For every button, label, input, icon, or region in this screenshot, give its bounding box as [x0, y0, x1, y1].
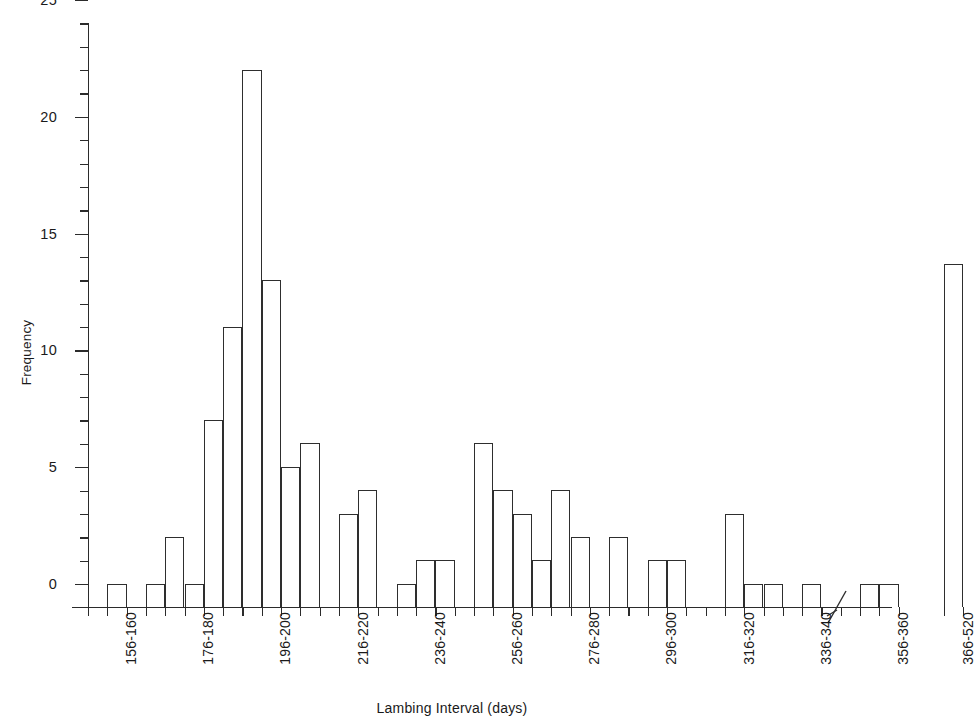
histogram-bar [397, 584, 416, 607]
histogram-bar [146, 584, 165, 607]
x-axis-tick [841, 607, 842, 616]
x-axis-tick [88, 607, 89, 616]
x-axis-tick [686, 607, 687, 616]
histogram-bar [339, 514, 358, 607]
histogram-bar [358, 490, 377, 607]
x-axis-tick [879, 607, 880, 616]
y-axis-minor-tick [80, 561, 88, 562]
y-axis-minor-tick [80, 140, 88, 141]
x-axis-tick [628, 607, 629, 616]
y-axis-tick-label: 0 [49, 576, 57, 592]
x-axis-tick [648, 607, 649, 616]
y-axis-minor-tick [80, 187, 88, 188]
x-axis-tick [378, 607, 379, 616]
x-axis-tick [474, 607, 475, 616]
histogram-bar [571, 537, 590, 607]
x-axis-tick [493, 607, 494, 616]
histogram-bar [300, 443, 319, 607]
histogram-bar [474, 443, 493, 607]
histogram-bar [223, 327, 242, 607]
y-axis-title: Frequency [19, 293, 34, 413]
y-axis-major-tick [75, 234, 88, 235]
x-axis-tick [223, 607, 224, 616]
y-axis-minor-tick [80, 327, 88, 328]
y-axis-major-tick [75, 0, 88, 1]
histogram-bar [532, 560, 551, 607]
x-axis-tick-label: 176-180 [200, 612, 216, 665]
y-axis-major-tick [75, 584, 88, 585]
y-axis-tick-label: 20 [40, 109, 57, 125]
x-axis-tick [339, 607, 340, 616]
x-axis-tick [146, 607, 147, 616]
histogram-bar [242, 70, 261, 607]
y-axis-tick-label: 5 [49, 459, 57, 475]
histogram-bar [879, 584, 898, 607]
x-axis-tick [320, 607, 321, 616]
histogram-bar [165, 537, 184, 607]
x-axis-tick-label: 256-260 [509, 612, 525, 665]
y-axis-minor-tick [80, 537, 88, 538]
x-axis-tick [185, 607, 186, 616]
y-axis-minor-tick [80, 514, 88, 515]
x-axis-tick-label: 336-340 [818, 612, 834, 665]
y-axis-major-tick [75, 350, 88, 351]
y-axis-minor-tick [80, 491, 88, 492]
y-axis-minor-tick [80, 210, 88, 211]
histogram-bar [725, 514, 744, 607]
histogram-bar [860, 584, 879, 607]
y-axis-minor-tick [80, 70, 88, 71]
y-axis-minor-tick [80, 304, 88, 305]
histogram-bar [944, 264, 963, 607]
x-axis-tick [706, 607, 707, 616]
x-axis-tick-label: 366-520 [960, 612, 976, 665]
x-axis-tick [262, 607, 263, 616]
histogram-bar [551, 490, 570, 607]
y-axis-minor-tick [80, 397, 88, 398]
x-axis-tick-label: 236-240 [432, 612, 448, 665]
x-axis-tick [725, 607, 726, 616]
histogram-bar [281, 467, 300, 607]
histogram-bar [435, 560, 454, 607]
x-axis-title: Lambing Interval (days) [0, 700, 904, 716]
x-axis-tick [551, 607, 552, 616]
x-axis-tick [107, 607, 108, 616]
x-axis-tick-label: 276-280 [586, 612, 602, 665]
y-axis-minor-tick [80, 280, 88, 281]
y-axis-tick-label: 25 [40, 0, 57, 8]
x-axis-line [72, 607, 892, 608]
y-axis-minor-tick [80, 164, 88, 165]
y-axis-minor-tick [80, 23, 88, 24]
y-axis-minor-tick [80, 47, 88, 48]
histogram-bar [802, 584, 821, 607]
histogram-bar [204, 420, 223, 607]
x-axis-tick-label: 156-160 [123, 612, 139, 665]
x-axis-tick [532, 607, 533, 616]
x-axis-tick [416, 607, 417, 616]
x-axis-tick [455, 607, 456, 616]
y-axis-minor-tick [80, 374, 88, 375]
x-axis-tick [764, 607, 765, 616]
histogram-bar [185, 584, 204, 607]
x-axis-tick [783, 607, 784, 616]
histogram-bar [493, 490, 512, 607]
x-axis-tick-label: 316-320 [741, 612, 757, 665]
x-axis-tick-label: 296-300 [663, 612, 679, 665]
histogram-bar [648, 560, 667, 607]
plot-area [88, 23, 888, 607]
y-axis-major-tick [75, 117, 88, 118]
x-axis-tick-label: 196-200 [277, 612, 293, 665]
y-axis-minor-tick [80, 257, 88, 258]
y-axis-tick-label: 15 [40, 226, 57, 242]
x-axis-tick [571, 607, 572, 616]
histogram-bar [744, 584, 763, 607]
histogram-bar [416, 560, 435, 607]
x-axis-tick-label: 216-220 [355, 612, 371, 665]
y-axis-minor-tick [80, 93, 88, 94]
histogram-bar [609, 537, 628, 607]
x-axis-tick [397, 607, 398, 616]
x-axis-tick [609, 607, 610, 616]
y-axis-tick-label: 10 [40, 342, 57, 358]
x-axis-tick [242, 607, 243, 616]
y-axis-major-tick [75, 467, 88, 468]
